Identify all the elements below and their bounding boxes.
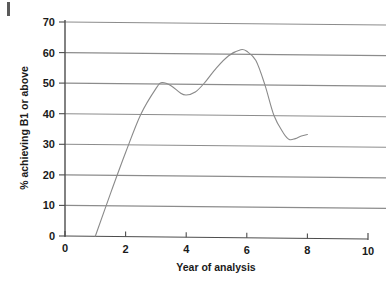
chart-svg: 70 60 50 40 30 20 10 0 0 2 4 6 8 10 Year…	[0, 0, 388, 284]
y-tick-label-30: 30	[43, 138, 55, 150]
gridline-30	[65, 144, 386, 147]
y-axis-ticks	[59, 22, 65, 236]
gridline-10	[65, 205, 386, 208]
x-axis-line	[65, 236, 368, 239]
gridline-20	[65, 175, 386, 178]
x-axis-title: Year of analysis	[176, 261, 256, 273]
x-tick-label-4: 4	[183, 243, 190, 255]
y-tick-label-20: 20	[43, 169, 55, 181]
x-axis-tick-labels: 0 2 4 6 8 10	[62, 242, 374, 257]
x-tick-label-10: 10	[362, 245, 374, 257]
gridline-50	[65, 83, 386, 86]
chart-figure: 70 60 50 40 30 20 10 0 0 2 4 6 8 10 Year…	[0, 0, 388, 284]
y-tick-label-10: 10	[43, 199, 55, 211]
x-tick-label-2: 2	[123, 243, 129, 255]
x-tick-label-0: 0	[62, 242, 68, 254]
y-tick-label-60: 60	[43, 47, 55, 59]
gridline-40	[65, 114, 386, 117]
gridline-70	[65, 22, 386, 25]
x-tick-label-6: 6	[244, 244, 250, 256]
y-axis-tick-labels: 70 60 50 40 30 20 10 0	[43, 16, 55, 242]
y-tick-label-50: 50	[43, 77, 55, 89]
x-tick-label-8: 8	[304, 244, 310, 256]
y-tick-label-70: 70	[43, 16, 55, 28]
y-tick-label-40: 40	[43, 108, 55, 120]
y-axis-title: % achieving B1 or above	[18, 66, 30, 190]
gridline-60	[65, 53, 386, 56]
y-tick-label-0: 0	[49, 230, 55, 242]
page-edge-artifact	[7, 2, 10, 16]
data-series-line	[95, 49, 307, 236]
gridlines-horizontal	[65, 22, 386, 208]
